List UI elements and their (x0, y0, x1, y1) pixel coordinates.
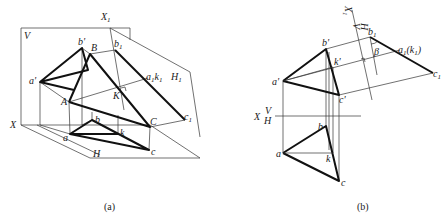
h-plane-inner-edge (37, 125, 100, 155)
label-A: A (60, 96, 68, 107)
projection-diagram: V X1 H1 b' B b1 a' a1k1 K A X C c1 b a k… (0, 0, 446, 221)
label-K: K (112, 90, 121, 101)
line-a-prime-k-prime (283, 67, 333, 81)
triangle-ABC (69, 54, 150, 127)
label-b-prime: b' (78, 36, 86, 47)
label-C: C (150, 116, 157, 127)
projector-b-prime-b1 (326, 37, 370, 49)
label-b-prime: b' (322, 37, 330, 48)
triangle-h-projection (283, 126, 339, 181)
label-k: k (120, 127, 125, 138)
panel-a: V X1 H1 b' B b1 a' a1k1 K A X C c1 b a k… (9, 11, 200, 213)
right-angle-mark-a (121, 87, 126, 91)
label-c1: c1 (433, 68, 441, 81)
label-b: b (318, 121, 323, 132)
label-k: k (326, 153, 331, 164)
label-X: X (9, 119, 17, 130)
triangle-v-projection (40, 48, 88, 90)
label-c-prime: c' (339, 94, 346, 105)
label-c: c (341, 177, 346, 188)
projector-C-c (149, 127, 150, 150)
label-a-prime: a' (272, 76, 280, 87)
projector-c-prime-c1 (339, 73, 433, 95)
panel-b: X1 V H b' b1 β a1(k1) k' a' c' c1 X V H … (253, 5, 441, 213)
label-B: B (91, 42, 97, 53)
label-a1k1: a1k1 (146, 71, 162, 84)
caption-a: (a) (104, 201, 115, 213)
label-X1: X1 (341, 5, 354, 16)
label-H: H (263, 115, 272, 126)
label-b1: b1 (114, 38, 123, 51)
label-beta: β (373, 46, 379, 57)
caption-b: (b) (357, 201, 369, 213)
triangle-v-projection (283, 49, 339, 95)
label-c1: c1 (184, 111, 192, 124)
projector-A-a1 (69, 78, 148, 102)
label-a-prime: a' (29, 75, 37, 86)
h-plane-right-edge (150, 125, 200, 158)
label-a: a (276, 148, 281, 159)
label-H1: H1 (170, 71, 182, 84)
label-c: c (151, 146, 156, 157)
label-k-prime: k' (334, 56, 341, 67)
label-X: X (253, 111, 261, 122)
projector-A-a (69, 102, 70, 134)
edge-view-b1c1 (370, 37, 433, 73)
label-V: V (24, 30, 32, 41)
label-a: a (63, 132, 68, 143)
label-H: H (92, 148, 101, 159)
label-X1: X1 (100, 11, 111, 24)
label-b: b (95, 114, 100, 125)
